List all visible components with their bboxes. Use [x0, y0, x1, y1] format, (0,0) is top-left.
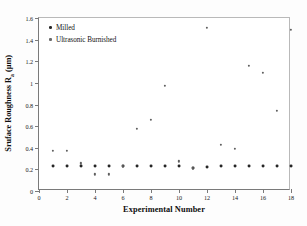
y-tick-label: 0.6: [26, 123, 33, 130]
data-point: [94, 165, 97, 168]
x-tick-mark: [123, 189, 124, 193]
y-axis-title-prefix: Sruface Roughness R: [4, 77, 13, 152]
x-tick-mark: [207, 189, 208, 193]
y-tick-label: 1.6: [26, 15, 33, 22]
data-point: [206, 166, 209, 169]
data-point: [262, 165, 265, 168]
y-axis-title: Sruface Roughness Ra (µm): [2, 0, 16, 207]
legend-label-milled: Milled: [56, 24, 75, 32]
y-tick-mark: [35, 83, 39, 84]
data-point: [206, 27, 208, 29]
y-tick-label: 1.2: [26, 58, 33, 65]
x-tick-mark: [151, 189, 152, 193]
plot-area: Milled Ultrasonic Burnished 00.20.40.60.…: [38, 17, 290, 190]
figure-canvas: Sruface Roughness Ra (µm) Milled Ultraso…: [0, 0, 307, 226]
data-point: [94, 173, 96, 175]
data-point: [108, 165, 111, 168]
data-point: [220, 144, 222, 146]
x-tick-label: 12: [204, 194, 210, 201]
x-axis-title: Experimental Number: [38, 205, 290, 214]
x-tick-label: 16: [260, 194, 266, 201]
y-tick-label: 0.4: [26, 144, 33, 151]
data-point: [52, 150, 54, 152]
y-tick-mark: [35, 105, 39, 106]
y-tick-label: 0.8: [26, 101, 33, 108]
data-point: [290, 29, 292, 31]
x-tick-label: 2: [65, 194, 68, 201]
data-point: [248, 165, 251, 168]
data-point: [66, 165, 69, 168]
x-tick-label: 10: [176, 194, 182, 201]
data-point: [290, 165, 293, 168]
data-point: [234, 165, 237, 168]
data-point: [178, 165, 181, 168]
y-tick-mark: [35, 169, 39, 170]
x-tick-mark: [291, 189, 292, 193]
data-point: [248, 65, 250, 67]
data-point: [276, 110, 278, 112]
data-point: [136, 128, 138, 130]
x-tick-label: 8: [149, 194, 152, 201]
y-axis-title-subscript: a: [8, 74, 14, 77]
y-tick-mark: [35, 126, 39, 127]
data-point: [108, 173, 110, 175]
x-tick-mark: [95, 189, 96, 193]
x-tick-label: 14: [232, 194, 238, 201]
y-axis-title-suffix: (µm): [4, 55, 13, 74]
x-tick-mark: [39, 189, 40, 193]
y-tick-mark: [35, 148, 39, 149]
y-tick-mark: [35, 18, 39, 19]
data-point: [178, 160, 180, 162]
x-tick-mark: [67, 189, 68, 193]
data-point: [234, 148, 236, 150]
y-tick-mark: [35, 61, 39, 62]
data-point: [150, 119, 152, 121]
x-tick-mark: [179, 189, 180, 193]
data-point: [80, 165, 83, 168]
y-tick-label: 0: [30, 188, 33, 195]
y-tick-mark: [35, 40, 39, 41]
legend-item-ultrasonic-burnished: Ultrasonic Burnished: [45, 34, 116, 45]
x-tick-mark: [263, 189, 264, 193]
x-tick-label: 6: [121, 194, 124, 201]
x-tick-mark: [235, 189, 236, 193]
y-tick-label: 0.2: [26, 166, 33, 173]
y-tick-label: 1.4: [26, 36, 33, 43]
legend-marker-burnished-icon: [45, 38, 56, 40]
data-point: [150, 165, 153, 168]
data-point: [66, 150, 68, 152]
chart-legend: Milled Ultrasonic Burnished: [45, 22, 116, 46]
x-tick-label: 0: [37, 194, 40, 201]
data-point: [164, 85, 166, 87]
y-tick-label: 1: [30, 79, 33, 86]
legend-marker-milled-icon: [45, 26, 56, 29]
data-point: [276, 165, 279, 168]
data-point: [220, 165, 223, 168]
data-point: [164, 165, 167, 168]
data-point: [262, 72, 264, 74]
x-tick-label: 4: [93, 194, 96, 201]
legend-label-ultrasonic-burnished: Ultrasonic Burnished: [56, 36, 116, 44]
x-tick-label: 18: [288, 194, 294, 201]
data-point: [136, 165, 139, 168]
legend-item-milled: Milled: [45, 22, 116, 33]
data-point: [52, 165, 55, 168]
